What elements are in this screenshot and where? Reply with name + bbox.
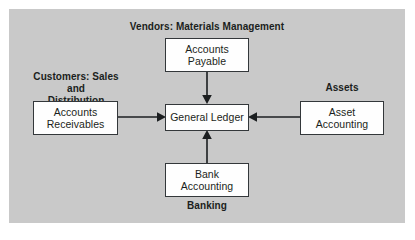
arrow-accounts-payable-to-general-ledger xyxy=(200,71,214,105)
node-accounts-receivables: Accounts Receivables xyxy=(33,101,118,135)
node-asset-accounting-label: Asset Accounting xyxy=(316,106,368,131)
node-accounts-payable-label: Accounts Payable xyxy=(185,43,229,68)
node-general-ledger-label: General Ledger xyxy=(170,111,244,124)
node-asset-accounting: Asset Accounting xyxy=(300,101,384,135)
node-bank-accounting: Bank Accounting xyxy=(165,163,249,197)
node-general-ledger: General Ledger xyxy=(165,104,249,131)
node-bank-accounting-label: Bank Accounting xyxy=(181,168,233,193)
arrow-bank-accounting-to-general-ledger xyxy=(200,129,214,165)
node-accounts-payable: Accounts Payable xyxy=(165,38,249,72)
arrow-asset-accounting-to-general-ledger xyxy=(247,110,302,124)
arrow-accounts-receivables-to-general-ledger xyxy=(117,110,167,124)
node-accounts-receivables-label: Accounts Receivables xyxy=(47,106,105,131)
diagram-panel: Vendors: Materials Management Customers:… xyxy=(9,9,405,223)
label-banking: Banking xyxy=(165,200,249,212)
label-vendors: Vendors: Materials Management xyxy=(119,21,295,33)
label-assets: Assets xyxy=(300,82,384,94)
